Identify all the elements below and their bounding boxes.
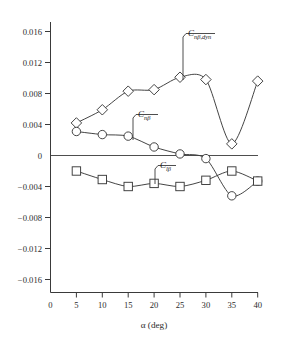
data-point-square [228,167,236,175]
x-tick-label: 20 [150,300,159,310]
cnb-annotation: Cnβ [138,109,151,121]
data-point-circle [150,143,158,151]
data-point-circle [202,154,210,162]
data-point-square [176,182,184,190]
y-tick-label: −0.004 [18,182,43,192]
data-point-square [72,167,80,175]
y-tick-labels: 0.016 0.012 0.008 0.004 0 −0.004 −0.008 … [18,27,43,285]
axes [51,22,259,293]
x-tick-labels: 0 5 10 15 20 25 30 35 40 [48,300,262,310]
y-tick-label: −0.012 [18,244,42,254]
x-ticks [76,293,257,298]
data-point-square [124,182,132,190]
y-tick-label: 0 [38,151,42,161]
data-point-circle [228,192,236,200]
cnbdyn-annotation: Cnβ,dyn [188,28,211,40]
y-ticks [45,32,51,280]
x-tick-label: 0 [48,300,52,310]
data-point-circle [124,132,132,140]
x-tick-label: 10 [98,300,107,310]
x-axis-title: α (deg) [141,320,168,330]
y-tick-label: 0.016 [23,27,43,37]
y-tick-label: −0.016 [18,275,43,285]
x-tick-label: 25 [176,300,185,310]
y-tick-label: 0.004 [23,120,43,130]
clb-annotation: Clβ [160,160,172,172]
data-point-diamond [71,118,82,129]
data-point-diamond [123,86,134,97]
data-point-diamond [252,76,263,87]
data-point-diamond [97,105,108,116]
y-tick-label: 0.012 [23,58,42,68]
series-layer [71,72,263,200]
annotation-labels: Cnβ,dyn Cnβ Clβ [138,28,211,172]
data-point-circle [176,150,184,158]
x-tick-label: 35 [228,300,237,310]
x-tick-label: 5 [74,300,78,310]
y-tick-label: −0.008 [18,213,42,223]
chart-container: 0.016 0.012 0.008 0.004 0 −0.004 −0.008 … [0,0,281,342]
data-point-diamond [149,84,160,95]
y-tick-label: 0.008 [23,89,42,99]
x-tick-label: 40 [253,300,262,310]
data-point-square [150,179,158,187]
data-point-square [98,175,106,183]
x-tick-label: 30 [202,300,211,310]
data-point-square [254,177,262,185]
chart-svg: 0.016 0.012 0.008 0.004 0 −0.004 −0.008 … [0,0,281,342]
data-point-diamond [175,72,186,83]
data-point-circle [72,127,80,135]
data-point-circle [98,130,106,138]
x-tick-label: 15 [124,300,133,310]
data-point-square [202,176,210,184]
